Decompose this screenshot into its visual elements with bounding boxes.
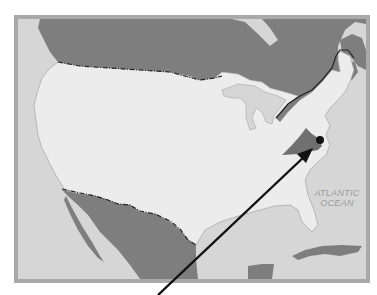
ocean-label-line1: ATLANTIC [309,188,365,198]
ocean-label-line2: OCEAN [309,198,365,208]
location-marker [316,136,324,144]
us-map [0,0,377,295]
yucatan [248,264,274,279]
ocean-label: ATLANTIC OCEAN [309,188,365,208]
